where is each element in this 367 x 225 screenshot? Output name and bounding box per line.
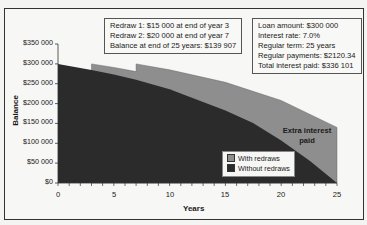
y-tick-label: $300 000 [9,58,53,67]
legend-label: With redraws [238,154,280,163]
x-axis-title: Years [183,204,204,213]
y-axis-title: Balance [11,95,20,126]
legend-label: Without redraws [238,164,290,173]
annotation-line: paid [272,136,342,146]
redraw-info-box: Redraw 1: $15 000 at end of year 3 Redra… [104,18,242,54]
final-balance-text: Balance at end of 25 years: $139 907 [110,41,236,51]
annotation-line: Extra interest [272,126,342,136]
x-tick-label: 20 [273,190,289,199]
interest-rate-text: Interest rate: 7.0% [258,31,356,41]
y-tick-label: $0 [9,177,53,186]
loan-amount-text: Loan amount: $300 000 [258,21,356,31]
chart-legend: With redraws Without redraws [222,151,295,177]
redraw-1-text: Redraw 1: $15 000 at end of year 3 [110,21,236,31]
legend-swatch-icon [227,154,235,162]
x-tick-label: 5 [106,190,122,199]
x-tick-label: 25 [329,190,345,199]
loan-info-box: Loan amount: $300 000 Interest rate: 7.0… [252,18,362,74]
total-interest-text: Total interest paid: $336 101 [258,61,356,71]
redraw-2-text: Redraw 2: $20 000 at end of year 7 [110,31,236,41]
legend-item-without-redraws: Without redraws [227,164,290,174]
regular-payments-text: Regular payments: $2120.34 [258,51,356,61]
y-tick-label: $350 000 [9,38,53,47]
x-tick-label: 10 [162,190,178,199]
legend-item-with-redraws: With redraws [227,154,290,164]
legend-swatch-icon [227,164,235,172]
regular-term-text: Regular term: 25 years [258,41,356,51]
x-tick-label: 15 [217,190,233,199]
x-tick-label: 0 [50,190,66,199]
y-tick-label: $50 000 [9,157,53,166]
extra-interest-annotation: Extra interest paid [272,126,342,146]
y-tick-label: $250 000 [9,78,53,87]
y-tick-label: $100 000 [9,137,53,146]
